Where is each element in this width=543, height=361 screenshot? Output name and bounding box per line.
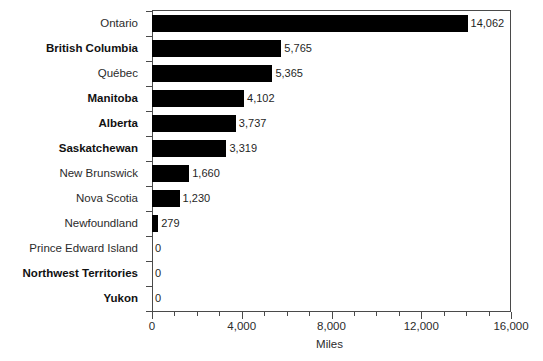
value-tick-major (421, 312, 422, 319)
category-label: Ontario (0, 11, 145, 36)
bar (152, 165, 189, 182)
bar-row: 5,365 (152, 61, 511, 86)
bar-value-label: 5,365 (272, 65, 303, 82)
bar-row: 5,765 (152, 36, 511, 61)
value-tick-minor (376, 312, 377, 316)
value-tick-minor (174, 312, 175, 316)
bar (152, 115, 236, 132)
bar (152, 140, 226, 157)
bar-value-label: 0 (152, 265, 161, 282)
value-tick-label: 8,000 (317, 320, 346, 332)
bar-row: 4,102 (152, 86, 511, 111)
bar-value-label: 0 (152, 240, 161, 257)
bar-row: 3,319 (152, 136, 511, 161)
value-tick-minor (264, 312, 265, 316)
value-tick-major (152, 312, 153, 319)
bars-layer: 14,0625,7655,3654,1023,7373,3191,6601,23… (152, 11, 511, 311)
bar-value-label: 279 (158, 215, 179, 232)
bar-value-label: 5,765 (281, 40, 312, 57)
value-tick-label: 12,000 (404, 320, 439, 332)
category-label: Prince Edward Island (0, 236, 145, 261)
category-label: Manitoba (0, 86, 145, 111)
bar-row: 3,737 (152, 111, 511, 136)
value-axis-tick-labels: 04,0008,00012,00016,000 (0, 320, 543, 336)
bar-row: 0 (152, 286, 511, 311)
value-tick-minor (466, 312, 467, 316)
bar-row: 0 (152, 236, 511, 261)
value-axis-title: Miles (0, 338, 543, 350)
value-tick-minor (287, 312, 288, 316)
value-tick-major (242, 312, 243, 319)
bar (152, 190, 180, 207)
category-label: Nova Scotia (0, 186, 145, 211)
category-tick (146, 11, 153, 12)
category-axis-labels: OntarioBritish ColumbiaQuébecManitobaAlb… (0, 11, 145, 311)
category-label: Newfoundland (0, 211, 145, 236)
value-tick-major (511, 312, 512, 319)
category-tick (146, 36, 153, 37)
category-tick (146, 286, 153, 287)
category-tick (146, 186, 153, 187)
value-tick-major (332, 312, 333, 319)
category-tick (146, 86, 153, 87)
category-tick (146, 111, 153, 112)
category-label: Northwest Territories (0, 261, 145, 286)
category-tick (146, 61, 153, 62)
bar-row: 1,230 (152, 186, 511, 211)
category-label: Saskatchewan (0, 136, 145, 161)
bar-value-label: 4,102 (244, 90, 275, 107)
category-label: British Columbia (0, 36, 145, 61)
bar (152, 15, 468, 32)
bar-value-label: 0 (152, 290, 161, 307)
bar-row: 1,660 (152, 161, 511, 186)
bar-value-label: 3,737 (236, 115, 267, 132)
category-label: Yukon (0, 286, 145, 311)
value-tick-minor (399, 312, 400, 316)
value-tick-minor (354, 312, 355, 316)
category-tick (146, 211, 153, 212)
bar-value-label: 1,660 (189, 165, 220, 182)
category-tick (146, 161, 153, 162)
bar-row: 279 (152, 211, 511, 236)
bar-value-label: 14,062 (468, 15, 505, 32)
bar-row: 0 (152, 261, 511, 286)
category-axis-ticks (146, 10, 153, 312)
value-tick-label: 0 (149, 320, 155, 332)
value-tick-minor (489, 312, 490, 316)
value-tick-minor (219, 312, 220, 316)
bar-row: 14,062 (152, 11, 511, 36)
category-tick (146, 136, 153, 137)
bar (152, 40, 281, 57)
bar-value-label: 3,319 (226, 140, 257, 157)
category-label: Québec (0, 61, 145, 86)
value-tick-minor (444, 312, 445, 316)
category-tick (146, 236, 153, 237)
bar-value-label: 1,230 (180, 190, 211, 207)
value-tick-label: 4,000 (227, 320, 256, 332)
value-axis-title-text: Miles (316, 338, 343, 350)
bar (152, 90, 244, 107)
value-tick-label: 16,000 (493, 320, 528, 332)
category-label: New Brunswick (0, 161, 145, 186)
bar-chart: OntarioBritish ColumbiaQuébecManitobaAlb… (0, 0, 543, 361)
category-tick (146, 261, 153, 262)
value-tick-minor (309, 312, 310, 316)
category-label: Alberta (0, 111, 145, 136)
bar (152, 65, 272, 82)
value-tick-minor (197, 312, 198, 316)
